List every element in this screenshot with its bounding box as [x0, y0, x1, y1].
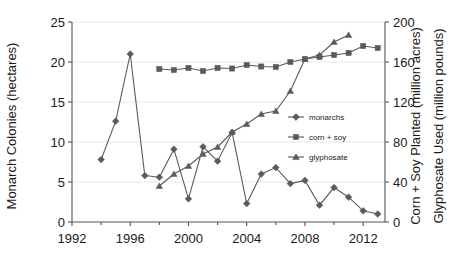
legend-label-glyphosate: glyphosate [309, 153, 348, 162]
data-point-corn-soy-1999 [171, 67, 176, 72]
x-tick-label-1992: 1992 [58, 231, 87, 246]
x-tick-label-2012: 2012 [349, 231, 378, 246]
chart-figure: 0510152025040801201602001992199620002004… [0, 0, 467, 264]
y-axis-left-title: Monarch Colonies (hectares) [4, 43, 19, 210]
data-point-corn-soy-2001 [200, 68, 205, 73]
y-tick-label-right-80: 80 [393, 135, 407, 150]
y-tick-label-left-0: 0 [58, 215, 65, 230]
data-point-corn-soy-2003 [230, 66, 235, 71]
legend-label-monarchs: monarchs [309, 113, 344, 122]
x-tick-label-2000: 2000 [174, 231, 203, 246]
x-tick-label-1996: 1996 [116, 231, 145, 246]
data-point-corn-soy-2006 [273, 64, 278, 69]
data-point-corn-soy-2007 [288, 59, 293, 64]
data-point-corn-soy-2013 [375, 45, 380, 50]
y-tick-label-left-25: 25 [51, 15, 65, 30]
y-tick-label-left-20: 20 [51, 55, 65, 70]
data-point-corn-soy-1998 [157, 66, 162, 71]
x-tick-label-2008: 2008 [290, 231, 319, 246]
multi-series-line-chart: 0510152025040801201602001992199620002004… [0, 0, 467, 264]
data-point-corn-soy-2012 [361, 43, 366, 48]
y-axis-right-title-corn-soy: Corn + Soy Planted (million acres) [408, 27, 423, 225]
data-point-corn-soy-2004 [244, 62, 249, 67]
y-tick-label-left-10: 10 [51, 135, 65, 150]
legend-marker-square-icon [293, 134, 298, 139]
y-axis-right-title-glyphosate: Glyphosate Used (million pounds) [431, 28, 446, 223]
y-tick-label-right-0: 0 [393, 215, 400, 230]
y-tick-label-left-15: 15 [51, 95, 65, 110]
data-point-corn-soy-2010 [331, 52, 336, 57]
data-point-corn-soy-2002 [215, 65, 220, 70]
y-tick-label-left-5: 5 [58, 175, 65, 190]
y-tick-label-right-40: 40 [393, 175, 407, 190]
data-point-corn-soy-2005 [259, 64, 264, 69]
legend-label-corn-soy: corn + soy [309, 133, 346, 142]
data-point-corn-soy-2000 [186, 65, 191, 70]
data-point-corn-soy-2011 [346, 50, 351, 55]
x-tick-label-2004: 2004 [232, 231, 261, 246]
